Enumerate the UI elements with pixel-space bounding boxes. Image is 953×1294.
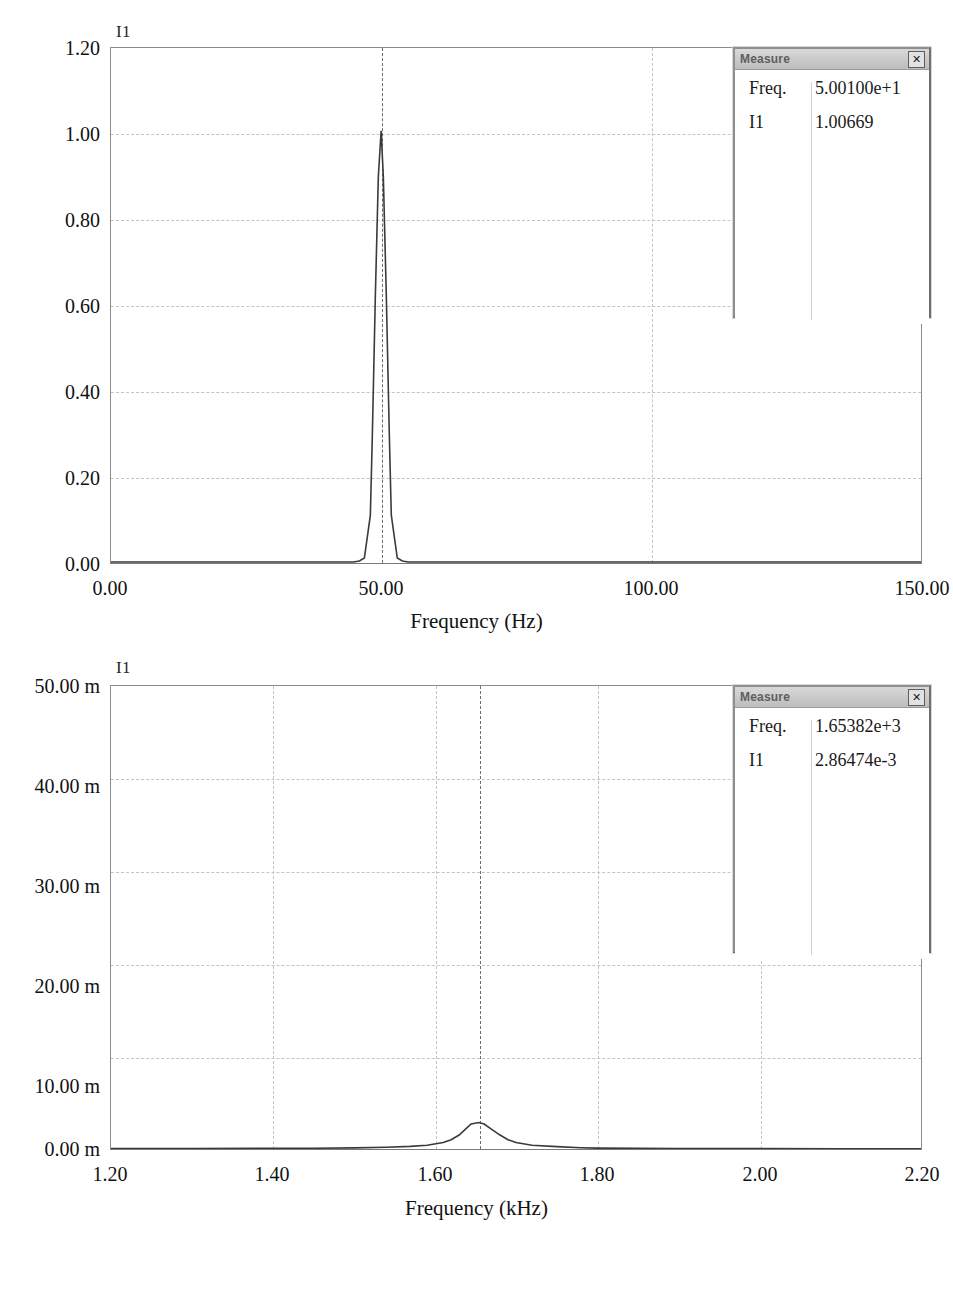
x-axis-title-bottom: Frequency (kHz) — [0, 1198, 953, 1219]
measure-window-title: Measure — [740, 52, 790, 66]
measure-titlebar-bottom[interactable]: Measure ✕ — [735, 687, 929, 708]
x-tick: 100.00 — [601, 578, 701, 598]
y-tick: 0.00 m — [44, 1139, 100, 1159]
x-tick: 1.40 — [222, 1164, 322, 1184]
measure-row-value: 1.65382e+3 — [815, 716, 901, 737]
measure-column-divider — [811, 720, 812, 955]
measure-row-label: Freq. — [749, 78, 815, 99]
measure-window-title: Measure — [740, 690, 790, 704]
y-tick: 50.00 m — [34, 676, 100, 696]
measure-row-label: I1 — [749, 112, 815, 133]
x-tick: 150.00 — [872, 578, 953, 598]
y-tick: 10.00 m — [34, 1076, 100, 1096]
measure-column-divider — [811, 82, 812, 320]
measure-row: Freq. 5.00100e+1 — [735, 78, 929, 112]
x-tick: 1.80 — [547, 1164, 647, 1184]
y-tick: 0.60 — [65, 296, 100, 316]
series-label-top: I1 — [116, 23, 131, 40]
y-tick: 40.00 m — [34, 776, 100, 796]
measure-row: I1 2.86474e-3 — [735, 750, 929, 784]
y-tick: 0.20 — [65, 468, 100, 488]
measure-body-bottom: Freq. 1.65382e+3 I1 2.86474e-3 — [735, 716, 929, 959]
y-tick: 0.40 — [65, 382, 100, 402]
x-tick: 1.20 — [60, 1164, 160, 1184]
measure-row-label: I1 — [749, 750, 815, 771]
measure-body-top: Freq. 5.00100e+1 I1 1.00669 — [735, 78, 929, 324]
y-tick: 1.20 — [65, 38, 100, 58]
y-tick: 30.00 m — [34, 876, 100, 896]
x-tick: 50.00 — [331, 578, 431, 598]
y-tick: 0.00 — [65, 554, 100, 574]
measure-row: I1 1.00669 — [735, 112, 929, 146]
series-label-bottom: I1 — [116, 659, 131, 676]
y-tick: 20.00 m — [34, 976, 100, 996]
x-tick: 0.00 — [60, 578, 160, 598]
measure-row-label: Freq. — [749, 716, 815, 737]
y-tick: 0.80 — [65, 210, 100, 230]
x-tick: 2.20 — [872, 1164, 953, 1184]
measure-row-value: 5.00100e+1 — [815, 78, 901, 99]
measure-window-top[interactable]: Measure ✕ Freq. 5.00100e+1 I1 1.00669 — [733, 47, 931, 318]
measure-row-value: 1.00669 — [815, 112, 874, 133]
close-icon[interactable]: ✕ — [908, 689, 925, 706]
x-tick: 2.00 — [710, 1164, 810, 1184]
measure-row: Freq. 1.65382e+3 — [735, 716, 929, 750]
measure-window-bottom[interactable]: Measure ✕ Freq. 1.65382e+3 I1 2.86474e-3 — [733, 685, 931, 953]
close-icon[interactable]: ✕ — [908, 51, 925, 68]
x-axis-title-top: Frequency (Hz) — [0, 611, 953, 632]
chart-bottom-spectrum: I1 50.00 m 40.00 m 30.00 m 20.00 m 10.00… — [0, 636, 953, 1276]
y-tick: 1.00 — [65, 124, 100, 144]
x-tick: 1.60 — [385, 1164, 485, 1184]
chart-top-spectrum: I1 1.20 1.00 0.80 0.60 0.40 0.20 0.00 0.… — [0, 0, 953, 630]
measure-row-value: 2.86474e-3 — [815, 750, 896, 771]
measure-titlebar-top[interactable]: Measure ✕ — [735, 49, 929, 70]
